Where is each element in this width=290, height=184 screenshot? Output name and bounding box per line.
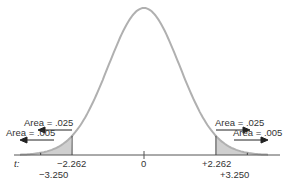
tick-label-pos-3250: +3.250 — [220, 170, 249, 180]
tick-label-zero: 0 — [141, 159, 146, 169]
tick-label-neg-3250: −3.250 — [39, 170, 68, 180]
tick-label-pos-2262: +2.262 — [202, 159, 231, 169]
right-area-005-label: Area = .005 — [233, 128, 282, 138]
density-curve — [20, 8, 268, 155]
tick-label-neg-2262: −2.262 — [57, 159, 86, 169]
arrows — [20, 127, 268, 143]
t-distribution-chart: Area = .025 Area = .005 Area = .025 Area… — [0, 0, 290, 184]
chart-canvas — [0, 0, 290, 184]
axis-variable-label: t: — [14, 159, 19, 169]
left-area-005-label: Area = .005 — [6, 128, 55, 138]
